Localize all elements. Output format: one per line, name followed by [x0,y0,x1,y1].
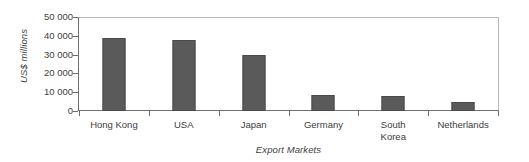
bars-container [79,17,498,111]
x-axis-tick-mark [289,111,290,116]
bar[interactable] [312,95,335,111]
y-axis-tick-label: 20 000 [20,68,73,78]
y-axis-tick-label: 30 000 [20,50,73,60]
y-axis-tick-mark [73,17,78,18]
bar-slot [79,17,149,111]
y-axis-tick-labels: 50 00040 00030 00020 00010 0000 [20,0,73,162]
bar[interactable] [242,55,265,111]
x-axis-tick-label: Hong Kong [79,119,149,131]
y-axis-tick-mark [73,36,78,37]
x-axis-tick-mark [428,111,429,116]
bar[interactable] [382,96,405,111]
x-axis-tick-mark [358,111,359,116]
x-axis-tick-mark [219,111,220,116]
x-axis-tick-label: Japan [219,119,289,131]
bar-slot [358,17,428,111]
bar-chart: US$ millions 50 00040 00030 00020 00010 … [0,0,529,162]
x-axis-tick-label: Germany [289,119,359,131]
bar[interactable] [172,40,195,111]
y-axis-tick-label: 50 000 [20,12,73,22]
bar[interactable] [102,38,125,111]
bar-slot [289,17,359,111]
y-axis-tick-mark [73,73,78,74]
x-axis-tick-mark [498,111,499,116]
bar-slot [219,17,289,111]
x-axis-tick-label: Netherlands [428,119,498,131]
y-axis-tick-label: 40 000 [20,31,73,41]
y-axis-tick-mark [73,55,78,56]
y-axis-tick-label: 10 000 [20,87,73,97]
x-axis-tick-mark [149,111,150,116]
x-axis-tick-label: South Korea [358,119,428,142]
x-axis-tick-label: USA [149,119,219,131]
y-axis-tick-mark [73,92,78,93]
y-axis-tick-label: 0 [20,106,73,116]
bar-slot [428,17,498,111]
bar[interactable] [452,102,475,111]
bar-slot [149,17,219,111]
y-axis-tick-mark [73,111,78,112]
x-axis-tick-mark [79,111,80,116]
x-axis-title: Export Markets [78,144,499,155]
